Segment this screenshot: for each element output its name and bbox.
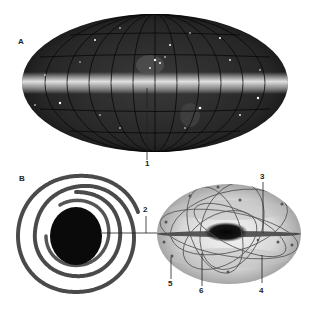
callout-3-label: 3 <box>260 173 264 181</box>
all-sky-map <box>22 14 288 152</box>
callout-1-label: 1 <box>145 160 149 168</box>
callout-5-label: 5 <box>168 280 172 288</box>
panel-b-label: B <box>19 175 25 183</box>
galaxy-edge-on-halo <box>156 173 302 284</box>
callout-2-label: 2 <box>143 206 147 214</box>
callout-6-label: 6 <box>199 287 203 295</box>
spiral-galaxy-face-on <box>18 176 138 292</box>
figure-canvas <box>0 0 315 310</box>
galactic-bulge <box>50 207 102 265</box>
callout-4-label: 4 <box>259 287 263 295</box>
